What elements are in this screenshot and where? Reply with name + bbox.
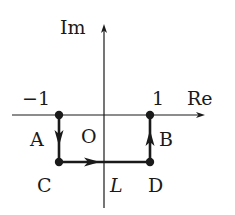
point-one xyxy=(146,111,154,119)
real-axis-label: Re xyxy=(187,87,213,109)
tick-label-one: 1 xyxy=(152,87,164,109)
contour-label: L xyxy=(109,174,123,196)
point-label-b: B xyxy=(159,128,173,150)
imag-axis-label: Im xyxy=(60,16,86,38)
point-label-c: C xyxy=(37,174,52,196)
origin-label: O xyxy=(81,125,97,147)
point-label-a: A xyxy=(29,128,44,150)
tick-label-neg-one: −1 xyxy=(22,87,50,109)
point-d xyxy=(146,158,154,166)
point-label-d: D xyxy=(148,174,163,196)
complex-plane-diagram: Im Re −1 1 O A B C D L xyxy=(0,0,235,215)
point-neg-one xyxy=(55,111,63,119)
point-c xyxy=(55,158,63,166)
